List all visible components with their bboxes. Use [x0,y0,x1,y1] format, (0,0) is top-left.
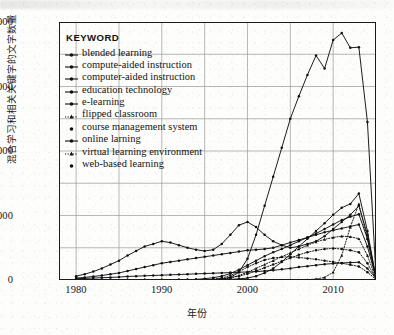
figure-container: 4000 3000 2000 1000 0 1980 1990 2000 201… [0,0,394,335]
x-tick-2000: 2000 [217,284,277,295]
legend-marker-icon [63,133,80,145]
x-axis-label: 年份 [0,305,394,320]
x-tick-1980: 1980 [46,284,106,295]
legend-label: blended learning [82,47,152,59]
legend-label: online larning [82,133,141,145]
y-tick-1000: 1000 [0,210,13,221]
y-tick-0: 0 [0,274,13,285]
legend-marker-icon [63,158,80,170]
y-axis-label: 混合学习和相关关键字的文字数量 [4,34,18,164]
legend-entry-0[interactable]: blended learning [63,47,249,59]
legend-label: education technology [82,84,172,96]
scan-artifact-strip [0,0,394,9]
legend-marker-icon [63,121,80,133]
legend-entry-list: blended learningcompute-aided instructio… [63,47,249,171]
x-tick-1990: 1990 [132,284,192,295]
legend-marker-icon [63,96,80,108]
legend-marker-icon [63,84,80,96]
legend-entry-5[interactable]: flipped classroom [63,108,249,120]
legend-entry-2[interactable]: computer-aided instruction [63,71,249,83]
legend-entry-9[interactable]: web-based learning [63,158,249,170]
legend-marker-icon [63,59,80,71]
legend-label: compute-aided instruction [82,59,192,71]
legend-entry-1[interactable]: compute-aided instruction [63,59,249,71]
legend-entry-3[interactable]: education technology [63,84,249,96]
legend-label: computer-aided instruction [82,71,195,83]
legend-marker-icon [63,109,80,121]
legend-entry-8[interactable]: virtual learning environment [63,146,249,158]
legend: KEYWORD blended learningcompute-aided in… [63,30,249,170]
legend-entry-7[interactable]: online larning [63,133,249,145]
legend-marker-icon [63,146,80,158]
legend-label: virtual learning environment [82,146,202,158]
legend-label: flipped classroom [82,108,157,120]
legend-entry-6[interactable]: course management system [63,121,249,133]
legend-title: KEYWORD [66,32,249,43]
legend-label: e-learning [82,96,125,108]
x-tick-2010: 2010 [303,284,363,295]
legend-label: course management system [82,121,197,133]
legend-entry-4[interactable]: e-learning [63,96,249,108]
legend-marker-icon [63,47,80,59]
legend-marker-icon [63,71,80,83]
legend-label: web-based learning [82,158,164,170]
